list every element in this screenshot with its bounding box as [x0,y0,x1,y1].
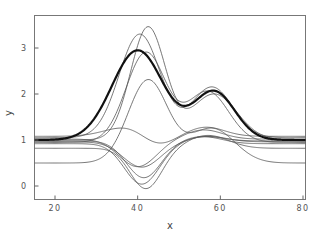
series-line-curve-4 [34,80,307,163]
x-tick-label: 20 [48,204,61,213]
x-tick-label: 80 [296,204,309,213]
x-axis-label: x [167,220,173,231]
plot-frame-rect [35,16,306,200]
y-tick-label: 2 [21,90,28,99]
series-line-mean [34,50,307,140]
x-axis-ticks: 20406080 [48,196,309,213]
chart: 20406080 0123 x y [0,0,318,239]
y-tick-label: 3 [21,44,28,53]
x-tick-label: 60 [214,204,227,213]
series-line-curve-2 [34,27,307,140]
plot-frame [35,16,306,200]
y-axis-ticks: 0123 [21,44,39,191]
x-tick-label: 40 [131,204,144,213]
y-axis-label: y [3,110,14,116]
series-line-curve-8 [34,137,307,184]
y-tick-label: 0 [21,182,28,191]
y-tick-label: 1 [21,136,28,145]
curves-group [34,27,307,189]
